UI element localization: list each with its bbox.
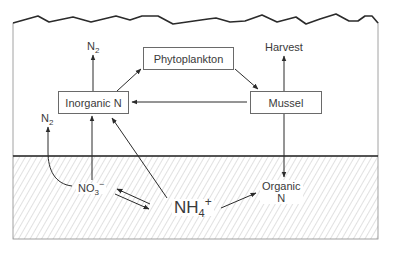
arrow-phytoplankton-to-mussel [235, 69, 258, 89]
harvest-label: Harvest [265, 42, 303, 53]
mussel-label: Mussel [269, 97, 304, 109]
ammonium-label: NH4+ [172, 199, 214, 216]
n2-top-label: N2 [87, 41, 99, 52]
phytoplankton-label: Phytoplankton [154, 53, 224, 65]
arrow-inorganic-to-phytoplankton [117, 69, 141, 91]
inorganic-n-label: Inorganic N [65, 97, 121, 109]
inorganic-n-box: Inorganic N [58, 91, 129, 114]
mussel-box: Mussel [250, 91, 322, 114]
n2-side-label: N2 [41, 113, 53, 124]
nitrate-label: NO3− [76, 183, 106, 194]
organic-n-label: Organic N [260, 180, 303, 204]
phytoplankton-box: Phytoplankton [143, 47, 234, 70]
water-surface-wave [13, 14, 378, 24]
